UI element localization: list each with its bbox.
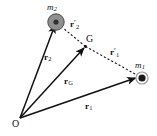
mass-m1-label: m1 [135, 61, 145, 71]
mass-m1-symbol: m [135, 60, 142, 70]
origin-label: O [12, 119, 19, 129]
vector-r1-label: r1 [85, 102, 92, 112]
vector-r1-subscript: 1 [89, 104, 92, 111]
vector-r1-prime-subscript: 1 [116, 51, 119, 58]
mass-m1-subscript: 1 [142, 63, 145, 70]
vector-r2-prime-subscript: 2 [76, 23, 79, 30]
mass-m1-marker [138, 74, 145, 81]
vector-rG-subscript: G [68, 79, 73, 86]
physics-vector-diagram: m2 m1 G O r2 rG r1 r′2 r′1 [0, 0, 157, 136]
centre-of-mass-point [84, 45, 87, 48]
mass-m2-subscript: 2 [54, 5, 57, 12]
vector-r2-subscript: 2 [48, 55, 51, 62]
vector-r2-prime-label: r′2 [70, 20, 79, 30]
mass-m2-symbol: m [47, 2, 54, 12]
centre-of-mass-label: G [86, 34, 93, 44]
mass-m2-label: m2 [47, 3, 57, 13]
vector-rG-label: rG [64, 77, 73, 87]
mass-m2-inner-dot [53, 19, 58, 24]
vector-r2-label: r2 [44, 53, 51, 63]
vector-r2-line [20, 25, 55, 118]
vector-r1-prime-label: r′1 [110, 48, 119, 58]
vector-r2-prime-line [63, 28, 86, 47]
